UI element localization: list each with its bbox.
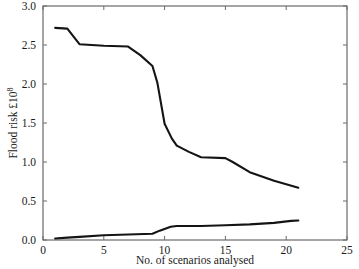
series-line (55, 28, 298, 188)
svg-text:Flood risk £108: Flood risk £108 (6, 87, 19, 158)
y-axis-ticks (43, 6, 347, 240)
y-tick-label: 0.5 (22, 195, 37, 207)
y-tick-label: 1.5 (22, 117, 37, 129)
y-axis-title-text: Flood risk £10 (7, 91, 19, 158)
x-tick-label: 25 (341, 244, 353, 256)
x-axis-ticks (43, 6, 347, 240)
flood-risk-line-chart: 0.00.51.01.52.02.53.0 0510152025 Flood r… (0, 0, 359, 269)
y-tick-label: 1.0 (22, 156, 37, 168)
chart-figure: 0.00.51.01.52.02.53.0 0510152025 Flood r… (0, 0, 359, 269)
y-tick-label: 3.0 (22, 0, 37, 12)
x-tick-label: 5 (101, 244, 107, 256)
y-axis-tick-labels: 0.00.51.01.52.02.53.0 (22, 0, 37, 246)
y-tick-label: 2.5 (22, 39, 37, 51)
x-tick-label: 0 (40, 244, 46, 256)
series-line (55, 221, 298, 239)
x-tick-label: 20 (280, 244, 292, 256)
y-axis-title: Flood risk £108 (6, 87, 19, 158)
data-series-group (55, 28, 298, 239)
x-axis-title: No. of scenarios analysed (136, 254, 254, 267)
y-tick-label: 0.0 (22, 234, 37, 246)
y-tick-label: 2.0 (22, 78, 37, 90)
y-axis-title-exponent: 8 (6, 87, 15, 91)
plot-area-frame (43, 6, 347, 240)
